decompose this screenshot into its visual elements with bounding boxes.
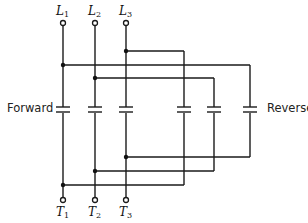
label-l1: L1: [56, 5, 69, 19]
line-terminals: [61, 21, 129, 26]
reverse-contacts: [177, 107, 257, 113]
reverse-label: Reverse: [267, 103, 308, 115]
label-l2: L2: [88, 5, 101, 19]
label-t2: T2: [88, 206, 101, 220]
forward-contacts: [56, 107, 133, 113]
label-l3: L3: [119, 5, 132, 19]
reverse-lines: [184, 51, 250, 185]
label-t1: T1: [56, 206, 69, 220]
load-terminals: [61, 198, 129, 203]
forward-label: Forward: [7, 103, 53, 115]
label-t3: T3: [119, 206, 132, 220]
lower-connections: [63, 157, 250, 185]
upper-connections: [63, 51, 250, 78]
